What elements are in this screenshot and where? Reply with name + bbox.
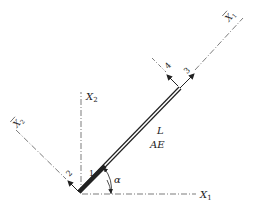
stiffness-label: AE: [149, 139, 165, 150]
dof-3-arrow: [180, 74, 194, 88]
svg-text:X1: X1: [222, 9, 238, 25]
dof-3-label: 3: [182, 66, 192, 76]
truss-element-diagram: X1 X2 X1 X2 α 1 2 3 4 L AE: [0, 0, 253, 211]
dof-4-label: 4: [163, 61, 173, 71]
length-label: L: [156, 125, 164, 136]
local-x1bar-axis: [195, 18, 243, 70]
svg-text:X2: X2: [10, 115, 26, 131]
dof-2-arrow: [68, 181, 79, 192]
dof-2-label: 2: [64, 168, 74, 178]
angle-alpha-arc-start: [107, 180, 111, 193]
dof-4-arrow: [167, 75, 178, 86]
angle-alpha-label: α: [114, 174, 121, 185]
dof-1-label: 1: [89, 169, 94, 178]
global-x2-label: X2: [85, 91, 98, 104]
global-x1-label: X1: [199, 189, 212, 202]
local-x1bar-label: X1: [222, 8, 238, 24]
local-x2bar-axis: [16, 130, 66, 179]
local-x2bar-label: X2: [10, 114, 27, 131]
